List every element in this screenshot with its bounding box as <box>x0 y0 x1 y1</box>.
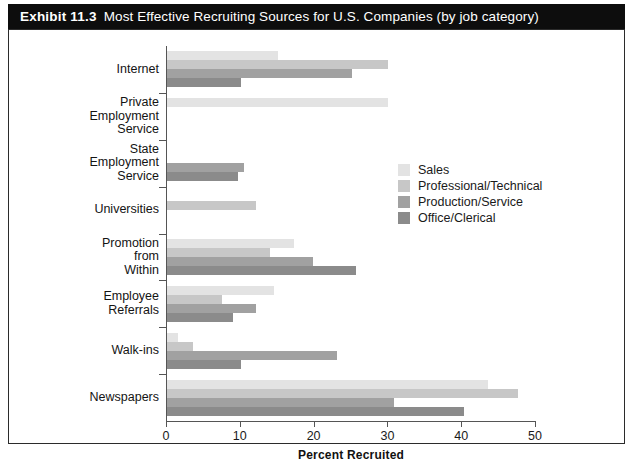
category-label-line: Employee <box>39 290 159 304</box>
category-label-line: Referrals <box>39 304 159 318</box>
category-label-line: Employment <box>39 156 159 170</box>
category-label: StateEmploymentService <box>39 143 159 184</box>
legend-swatch <box>398 212 410 224</box>
x-axis-title: Percent Recruited <box>166 448 536 462</box>
category-label-line: Newspapers <box>39 391 159 405</box>
bar <box>167 266 356 275</box>
legend-item: Sales <box>398 162 542 178</box>
category-label: EmployeeReferrals <box>39 290 159 317</box>
category-tick <box>159 374 167 375</box>
bar <box>167 313 233 322</box>
legend-swatch <box>398 180 410 192</box>
bar <box>167 351 337 360</box>
bar <box>167 407 464 416</box>
category-tick <box>159 93 167 94</box>
legend-item: Production/Service <box>398 194 542 210</box>
category-label-line: Employment <box>39 110 159 124</box>
category-tick <box>159 140 167 141</box>
legend-item: Professional/Technical <box>398 178 542 194</box>
bar <box>167 380 488 389</box>
exhibit-title-bar: Exhibit 11.3Most Effective Recruiting So… <box>8 4 625 29</box>
x-tick-label: 10 <box>233 429 247 443</box>
category-label-line: State <box>39 143 159 157</box>
category-label: PrivateEmploymentService <box>39 96 159 137</box>
x-tick-label: 50 <box>528 429 542 443</box>
exhibit-title: Most Effective Recruiting Sources for U.… <box>104 9 539 24</box>
category-label: Internet <box>39 63 159 77</box>
x-tick-label: 30 <box>380 429 394 443</box>
legend-label: Production/Service <box>418 195 523 209</box>
bar <box>167 304 256 313</box>
bar <box>167 172 238 181</box>
bar <box>167 257 313 266</box>
exhibit-number: Exhibit 11.3 <box>20 9 97 24</box>
plot-area: 01020304050 Percent Recruited <box>166 46 535 421</box>
category-label: Walk-ins <box>39 344 159 358</box>
category-tick <box>159 327 167 328</box>
category-label-line: Service <box>39 170 159 184</box>
category-label-line: from <box>39 250 159 264</box>
legend-item: Office/Clerical <box>398 210 542 226</box>
bar <box>167 342 193 351</box>
category-label: Newspapers <box>39 391 159 405</box>
legend-label: Professional/Technical <box>418 179 542 193</box>
legend-swatch <box>398 196 410 208</box>
x-tick <box>314 421 315 427</box>
category-axis-labels: InternetPrivateEmploymentServiceStateEmp… <box>31 46 159 421</box>
bar <box>167 389 518 398</box>
exhibit-figure: Exhibit 11.3Most Effective Recruiting So… <box>8 4 625 444</box>
category-tick <box>159 187 167 188</box>
bar-group <box>167 286 536 322</box>
category-tick <box>159 280 167 281</box>
bar-group <box>167 98 536 134</box>
bar <box>167 60 388 69</box>
category-tick <box>159 234 167 235</box>
bar <box>167 248 270 257</box>
x-tick-label: 0 <box>163 429 170 443</box>
x-tick <box>535 421 536 427</box>
x-axis-line <box>166 421 536 422</box>
bar <box>167 295 222 304</box>
x-tick <box>240 421 241 427</box>
category-label-line: Service <box>39 123 159 137</box>
x-tick-label: 20 <box>307 429 321 443</box>
legend-label: Sales <box>418 163 449 177</box>
x-tick <box>166 421 167 427</box>
bar-group <box>167 51 536 87</box>
category-label-line: Universities <box>39 203 159 217</box>
legend-label: Office/Clerical <box>418 211 496 225</box>
bar-group <box>167 380 536 416</box>
bar <box>167 286 274 295</box>
bar <box>167 239 294 248</box>
chart-frame: InternetPrivateEmploymentServiceStateEmp… <box>8 29 625 444</box>
bar <box>167 333 178 342</box>
x-tick <box>387 421 388 427</box>
category-label-line: Within <box>39 264 159 278</box>
category-label: Universities <box>39 203 159 217</box>
x-tick-label: 40 <box>454 429 468 443</box>
category-label-line: Walk-ins <box>39 344 159 358</box>
legend-swatch <box>398 164 410 176</box>
bar <box>167 69 352 78</box>
category-label-line: Private <box>39 96 159 110</box>
x-tick <box>461 421 462 427</box>
bar <box>167 398 394 407</box>
bar <box>167 360 241 369</box>
bar <box>167 78 241 87</box>
category-label-line: Internet <box>39 63 159 77</box>
category-label-line: Promotion <box>39 237 159 251</box>
bar <box>167 163 244 172</box>
bar-group <box>167 333 536 369</box>
bar <box>167 98 388 107</box>
bar <box>167 51 278 60</box>
bar-group <box>167 239 536 275</box>
bar <box>167 201 256 210</box>
chart-legend: SalesProfessional/TechnicalProduction/Se… <box>398 162 542 226</box>
category-label: PromotionfromWithin <box>39 237 159 278</box>
